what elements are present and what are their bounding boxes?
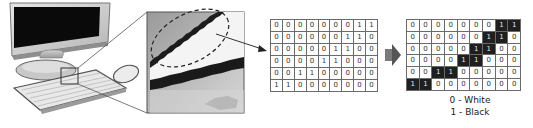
matrix-row: 110000000 xyxy=(271,80,378,92)
matrix-cell: 0 xyxy=(318,68,330,80)
matrix-cell: 0 xyxy=(432,43,445,55)
matrix-cell: 0 xyxy=(508,43,521,55)
binary-matrix-output: 0000000110000001100000011000000110000011… xyxy=(406,19,521,91)
matrix-cell: 0 xyxy=(271,56,283,68)
matrix-cell: 0 xyxy=(432,55,445,67)
matrix-cell: 0 xyxy=(432,31,445,43)
matrix-cell: 1 xyxy=(457,55,470,67)
matrix-cell: 1 xyxy=(495,20,508,32)
matrix-cell: 0 xyxy=(342,56,354,68)
matrix-cell: 0 xyxy=(282,68,294,80)
matrix-cell: 1 xyxy=(354,20,366,32)
matrix-cell: 0 xyxy=(318,20,330,32)
matrix-cell: 1 xyxy=(306,68,318,80)
matrix-cell: 0 xyxy=(457,67,470,79)
matrix-cell: 0 xyxy=(508,55,521,67)
matrix-cell: 0 xyxy=(419,55,432,67)
matrix-cell: 0 xyxy=(318,80,330,92)
matrix-cell: 0 xyxy=(495,79,508,91)
zoomed-pixel-view xyxy=(142,0,244,113)
matrix-cell: 0 xyxy=(508,79,521,91)
matrix-cell: 0 xyxy=(354,44,366,56)
matrix-cell: 1 xyxy=(354,32,366,44)
matrix-cell: 0 xyxy=(495,55,508,67)
matrix-cell: 1 xyxy=(482,43,495,55)
binary-matrix-input: 0000000110000001100000011000000110000011… xyxy=(270,19,378,92)
matrix-cell: 0 xyxy=(306,80,318,92)
matrix-cell: 0 xyxy=(282,20,294,32)
matrix-row: 001100000 xyxy=(407,67,521,79)
matrix-cell: 0 xyxy=(407,31,420,43)
matrix-cell: 0 xyxy=(419,20,432,32)
matrix-cell: 0 xyxy=(407,67,420,79)
matrix-cell: 0 xyxy=(271,32,283,44)
matrix-cell: 0 xyxy=(444,43,457,55)
matrix-cell: 1 xyxy=(366,20,378,32)
matrix-cell: 1 xyxy=(318,56,330,68)
matrix-cell: 0 xyxy=(508,67,521,79)
matrix-row: 000001100 xyxy=(271,44,378,56)
matrix-cell: 0 xyxy=(444,55,457,67)
matrix-row: 000000011 xyxy=(407,20,521,32)
matrix-cell: 0 xyxy=(330,20,342,32)
matrix-cell: 0 xyxy=(419,67,432,79)
matrix-cell: 0 xyxy=(354,56,366,68)
arrow-right-icon xyxy=(385,44,401,66)
matrix-cell: 0 xyxy=(306,32,318,44)
matrix-cell: 0 xyxy=(271,68,283,80)
matrix-cell: 0 xyxy=(470,67,483,79)
legend-one: 1 - Black xyxy=(430,107,510,117)
matrix-cell: 0 xyxy=(318,32,330,44)
matrix-cell: 0 xyxy=(407,43,420,55)
matrix-cell: 0 xyxy=(457,43,470,55)
matrix-cell: 0 xyxy=(294,20,306,32)
matrix-cell: 0 xyxy=(366,56,378,68)
matrix-cell: 0 xyxy=(407,20,420,32)
matrix-cell: 0 xyxy=(342,68,354,80)
matrix-cell: 1 xyxy=(407,79,420,91)
matrix-cell: 1 xyxy=(470,43,483,55)
matrix-cell: 0 xyxy=(354,80,366,92)
matrix-cell: 0 xyxy=(419,43,432,55)
matrix-cell: 0 xyxy=(342,20,354,32)
matrix-cell: 0 xyxy=(495,67,508,79)
matrix-cell: 1 xyxy=(495,31,508,43)
matrix-cell: 0 xyxy=(306,20,318,32)
matrix-cell: 1 xyxy=(470,55,483,67)
matrix-cell: 0 xyxy=(366,68,378,80)
matrix-row: 000000110 xyxy=(407,31,521,43)
matrix-cell: 0 xyxy=(457,31,470,43)
matrix-row: 000000110 xyxy=(271,32,378,44)
monitor-icon xyxy=(10,3,110,80)
matrix-row: 000011000 xyxy=(271,56,378,68)
matrix-row: 110000000 xyxy=(407,79,521,91)
matrix-cell: 0 xyxy=(366,44,378,56)
matrix-cell: 0 xyxy=(294,44,306,56)
matrix-cell: 1 xyxy=(444,67,457,79)
matrix-cell: 0 xyxy=(282,32,294,44)
matrix-cell: 1 xyxy=(330,56,342,68)
matrix-cell: 1 xyxy=(432,67,445,79)
matrix-cell: 0 xyxy=(366,32,378,44)
matrix-cell: 1 xyxy=(508,20,521,32)
matrix-cell: 0 xyxy=(354,68,366,80)
matrix-cell: 0 xyxy=(282,56,294,68)
matrix-cell: 0 xyxy=(432,20,445,32)
matrix-cell: 1 xyxy=(294,68,306,80)
matrix-cell: 0 xyxy=(457,79,470,91)
matrix-cell: 0 xyxy=(407,55,420,67)
matrix-row: 000011000 xyxy=(407,55,521,67)
matrix-cell: 0 xyxy=(342,80,354,92)
matrix-cell: 0 xyxy=(470,79,483,91)
matrix-cell: 1 xyxy=(271,80,283,92)
matrix-cell: 1 xyxy=(282,80,294,92)
matrix-cell: 0 xyxy=(330,32,342,44)
matrix-cell: 0 xyxy=(366,80,378,92)
matrix-cell: 0 xyxy=(330,68,342,80)
matrix-cell: 1 xyxy=(419,79,432,91)
matrix-cell: 1 xyxy=(342,32,354,44)
matrix-cell: 0 xyxy=(271,20,283,32)
matrix-row: 001100000 xyxy=(271,68,378,80)
matrix-cell: 0 xyxy=(294,32,306,44)
matrix-cell: 1 xyxy=(482,31,495,43)
